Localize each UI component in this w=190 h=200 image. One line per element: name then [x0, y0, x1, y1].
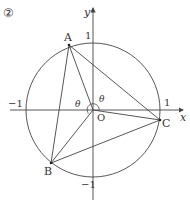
- unit-circle-diagram: ② A B C y x O 1 −1 −1 1 θ θ: [0, 0, 190, 200]
- point-b: [50, 162, 53, 165]
- x-axis-label: x: [180, 111, 187, 124]
- y-axis-label: y: [83, 6, 91, 19]
- point-a-label: A: [63, 31, 73, 44]
- point-c: [159, 119, 162, 122]
- tick-y-neg-1: −1: [81, 179, 96, 190]
- tick-x-neg-1: −1: [8, 98, 23, 109]
- point-c-label: C: [162, 117, 170, 130]
- triangle-abc: [51, 45, 160, 163]
- theta-label-left: θ: [75, 99, 81, 109]
- origin-label: O: [97, 112, 105, 123]
- tick-x-pos-1: 1: [164, 97, 170, 108]
- tick-y-pos-1: 1: [85, 30, 91, 41]
- point-b-label: B: [44, 165, 52, 178]
- point-a: [68, 44, 71, 47]
- figure-number-label: ②: [3, 6, 14, 20]
- theta-label-right: θ: [99, 94, 105, 104]
